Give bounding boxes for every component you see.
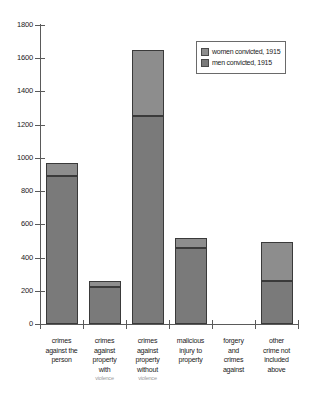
- legend-item-men: men convicted, 1915: [201, 58, 280, 68]
- bar-column: [132, 50, 164, 324]
- y-axis-line: [40, 24, 41, 325]
- bar-segment-women: [261, 242, 293, 281]
- category-label-line: with: [83, 365, 126, 375]
- bar-column: [261, 242, 293, 324]
- y-tick-label: 600: [3, 220, 33, 228]
- y-tick-mark: [35, 125, 45, 126]
- category-label-line: above: [255, 365, 298, 375]
- category-label-line: injury to: [169, 346, 212, 356]
- y-tick-label: 0: [3, 320, 33, 328]
- x-tick-mark: [255, 320, 256, 329]
- y-tick-label: 1400: [3, 87, 33, 95]
- y-tick-mark: [35, 25, 45, 26]
- women-swatch-icon: [201, 48, 209, 56]
- bar-segment-men: [132, 116, 164, 324]
- bar-segment-women: [175, 238, 207, 248]
- y-tick-mark: [35, 191, 45, 192]
- category-label-line: included: [255, 355, 298, 365]
- bar-segment-women: [46, 163, 78, 176]
- y-tick-mark: [35, 158, 45, 159]
- category-label-line: malicious: [169, 336, 212, 346]
- category-label-line: crimes: [126, 336, 169, 346]
- x-tick-mark: [298, 320, 299, 329]
- category-label-line: against the: [40, 346, 83, 356]
- bar-column: [175, 238, 207, 324]
- x-tick-mark: [40, 320, 41, 329]
- y-tick-label: 400: [3, 254, 33, 262]
- category-label: maliciousinjury toproperty: [169, 336, 212, 365]
- y-tick-mark: [35, 258, 45, 259]
- category-label-line: against: [126, 346, 169, 356]
- bar-segment-women: [132, 50, 164, 116]
- bar-segment-men: [175, 248, 207, 324]
- category-label: crimesagainst theperson: [40, 336, 83, 365]
- category-label: crimesagainstpropertywithoutviolence: [126, 336, 169, 382]
- y-tick-label: 1000: [3, 154, 33, 162]
- x-tick-mark: [83, 320, 84, 329]
- men-swatch-icon: [201, 59, 209, 67]
- legend-label-men: men convicted, 1915: [212, 59, 272, 67]
- category-label-line: crimes: [83, 336, 126, 346]
- category-label-line: property: [126, 355, 169, 365]
- y-tick-mark: [35, 291, 45, 292]
- category-label-line: against: [83, 346, 126, 356]
- y-tick-label: 1200: [3, 121, 33, 129]
- x-tick-mark: [169, 320, 170, 329]
- category-label-line: and: [212, 346, 255, 356]
- category-label-line: property: [169, 355, 212, 365]
- category-label: crimesagainstpropertywithviolence: [83, 336, 126, 382]
- bar-segment-men: [89, 287, 121, 324]
- y-tick-label: 800: [3, 187, 33, 195]
- bar-column: [89, 281, 121, 324]
- y-tick-mark: [35, 91, 45, 92]
- bar-segment-men: [261, 281, 293, 324]
- y-tick-mark: [35, 224, 45, 225]
- x-tick-mark: [126, 320, 127, 329]
- y-tick-label: 1800: [3, 21, 33, 29]
- chart-legend: women convicted, 1915 men convicted, 191…: [196, 41, 286, 74]
- category-label: forgeryandcrimesagainst: [212, 336, 255, 374]
- category-label-line: without: [126, 365, 169, 375]
- category-label-line: violence: [126, 374, 169, 382]
- category-label-line: crimes: [40, 336, 83, 346]
- category-label-line: forgery: [212, 336, 255, 346]
- category-label-line: property: [83, 355, 126, 365]
- category-label-line: against: [212, 365, 255, 375]
- category-label-line: crime not: [255, 346, 298, 356]
- category-label: othercrime notincludedabove: [255, 336, 298, 374]
- y-tick-label: 1600: [3, 54, 33, 62]
- bar-column: [46, 163, 78, 324]
- category-label-line: violence: [83, 374, 126, 382]
- y-tick-mark: [35, 58, 45, 59]
- x-tick-mark: [212, 320, 213, 329]
- category-label-line: other: [255, 336, 298, 346]
- stacked-bar-chart: 020040060080010001200140016001800 crimes…: [0, 0, 312, 417]
- y-tick-label: 200: [3, 287, 33, 295]
- category-label-line: person: [40, 355, 83, 365]
- bar-segment-men: [46, 176, 78, 324]
- legend-label-women: women convicted, 1915: [212, 48, 280, 56]
- category-label-line: crimes: [212, 355, 255, 365]
- legend-item-women: women convicted, 1915: [201, 47, 280, 57]
